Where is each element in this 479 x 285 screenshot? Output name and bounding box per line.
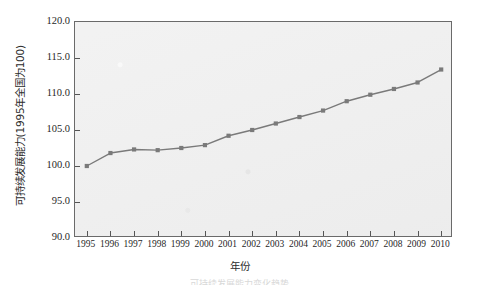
y-axis-tick-label: 105.0: [24, 124, 70, 135]
data-point-marker: [179, 146, 183, 150]
x-axis-tick-mark: [252, 231, 253, 236]
x-axis-tick-label: 1995: [76, 240, 95, 250]
y-axis-tick-mark: [75, 166, 80, 167]
x-axis-tick-mark: [370, 231, 371, 236]
x-axis-tick-label: 2005: [313, 240, 332, 250]
x-axis-tick-label: 1998: [147, 240, 166, 250]
y-axis-tick-mark: [75, 130, 80, 131]
data-point-marker: [156, 148, 160, 152]
x-axis-tick-label: 1996: [100, 240, 119, 250]
x-axis-tick-label: 2004: [289, 240, 308, 250]
y-axis-tick-label: 115.0: [24, 52, 70, 63]
data-point-marker: [226, 134, 230, 138]
x-axis-tick-mark: [205, 231, 206, 236]
chart-figure: 可持续发展能力(1995年全国为100) 120.0115.0110.0105.…: [0, 0, 479, 285]
x-axis-tick-mark: [181, 231, 182, 236]
y-axis-tick-label: 90.0: [24, 232, 70, 243]
x-axis-tick-mark: [87, 231, 88, 236]
x-axis-tick-label: 2001: [218, 240, 237, 250]
x-axis-tick-mark: [134, 231, 135, 236]
data-point-marker: [132, 147, 136, 151]
x-axis-tick-label: 2003: [265, 240, 284, 250]
x-axis-tick-label: 2006: [336, 240, 355, 250]
x-axis-tick-mark: [347, 231, 348, 236]
data-series-layer: [75, 22, 453, 238]
y-axis-tick-label: 110.0: [24, 88, 70, 99]
x-axis-tick-label: 2009: [407, 240, 426, 250]
x-axis-tick-labels: 1995199619971998199920002001200220032004…: [74, 240, 452, 254]
data-point-marker: [415, 80, 419, 84]
x-axis-tick-label: 2007: [360, 240, 379, 250]
data-point-marker: [274, 121, 278, 125]
x-axis-tick-label: 2002: [242, 240, 261, 250]
y-axis-tick-mark: [75, 58, 80, 59]
plot-area: [74, 21, 452, 237]
data-point-marker: [392, 87, 396, 91]
x-axis-tick-label: 1997: [124, 240, 143, 250]
data-point-marker: [250, 128, 254, 132]
x-axis-tick-mark: [394, 231, 395, 236]
y-axis-tick-label: 95.0: [24, 196, 70, 207]
y-axis-tick-label: 120.0: [24, 16, 70, 27]
x-axis-tick-mark: [229, 231, 230, 236]
x-axis-tick-mark: [418, 231, 419, 236]
y-axis-tick-labels: 120.0115.0110.0105.0100.095.090.0: [24, 0, 70, 285]
x-axis-title: 年份: [0, 258, 479, 273]
data-point-marker: [345, 99, 349, 103]
x-axis-tick-label: 2000: [194, 240, 213, 250]
x-axis-tick-mark: [158, 231, 159, 236]
sustainability-markers: [85, 67, 444, 168]
x-axis-tick-label: 2010: [431, 240, 450, 250]
y-axis-tick-mark: [75, 94, 80, 95]
data-point-marker: [368, 93, 372, 97]
data-point-marker: [85, 164, 89, 168]
data-point-marker: [297, 115, 301, 119]
y-axis-tick-label: 100.0: [24, 160, 70, 171]
x-axis-tick-mark: [323, 231, 324, 236]
data-point-marker: [108, 151, 112, 155]
x-axis-tick-mark: [276, 231, 277, 236]
data-point-marker: [203, 143, 207, 147]
x-axis-tick-mark: [110, 231, 111, 236]
data-point-marker: [321, 108, 325, 112]
x-axis-tick-mark: [299, 231, 300, 236]
x-axis-tick-label: 2008: [383, 240, 402, 250]
data-point-marker: [439, 67, 443, 71]
x-axis-tick-mark: [441, 231, 442, 236]
figure-caption: 可持续发展能力变化趋势: [0, 277, 479, 285]
sustainability-line: [87, 70, 441, 166]
x-axis-tick-label: 1999: [171, 240, 190, 250]
y-axis-tick-mark: [75, 202, 80, 203]
